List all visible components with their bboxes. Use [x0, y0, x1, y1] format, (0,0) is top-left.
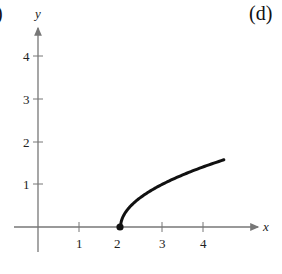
y-tick-4: 4 — [23, 49, 30, 64]
x-tick-2: 2 — [114, 236, 121, 251]
y-ticks: 1 2 3 4 — [23, 49, 43, 192]
y-tick-3: 3 — [23, 92, 30, 107]
x-tick-4: 4 — [200, 236, 207, 251]
graph: ) (d) x y 1 2 3 4 1 2 3 4 — [0, 0, 282, 274]
function-curve — [121, 160, 224, 227]
x-tick-3: 3 — [159, 236, 166, 251]
x-tick-1: 1 — [76, 236, 83, 251]
y-axis-label: y — [33, 6, 41, 21]
panel-label-left: ) — [0, 2, 3, 25]
y-tick-2: 2 — [23, 135, 30, 150]
y-tick-1: 1 — [23, 177, 30, 192]
start-point-dot — [116, 223, 123, 230]
panel-label-d: (d) — [249, 2, 272, 25]
x-axis-label: x — [262, 219, 269, 234]
